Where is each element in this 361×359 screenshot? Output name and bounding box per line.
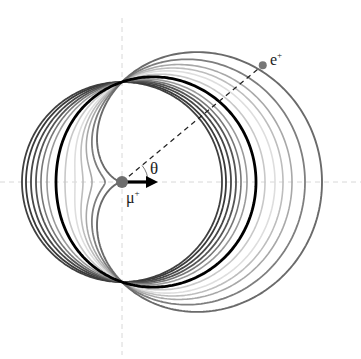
- muon-label: μ+: [126, 190, 140, 206]
- positron-label: e+: [270, 52, 282, 68]
- muon-dot: [116, 176, 128, 188]
- theta-label: θ: [150, 160, 158, 177]
- limacon-diagram: [0, 0, 361, 359]
- muon-symbol: μ: [126, 189, 135, 206]
- positron-charge: +: [277, 50, 282, 60]
- positron-dot: [259, 61, 267, 69]
- muon-charge: +: [135, 188, 140, 198]
